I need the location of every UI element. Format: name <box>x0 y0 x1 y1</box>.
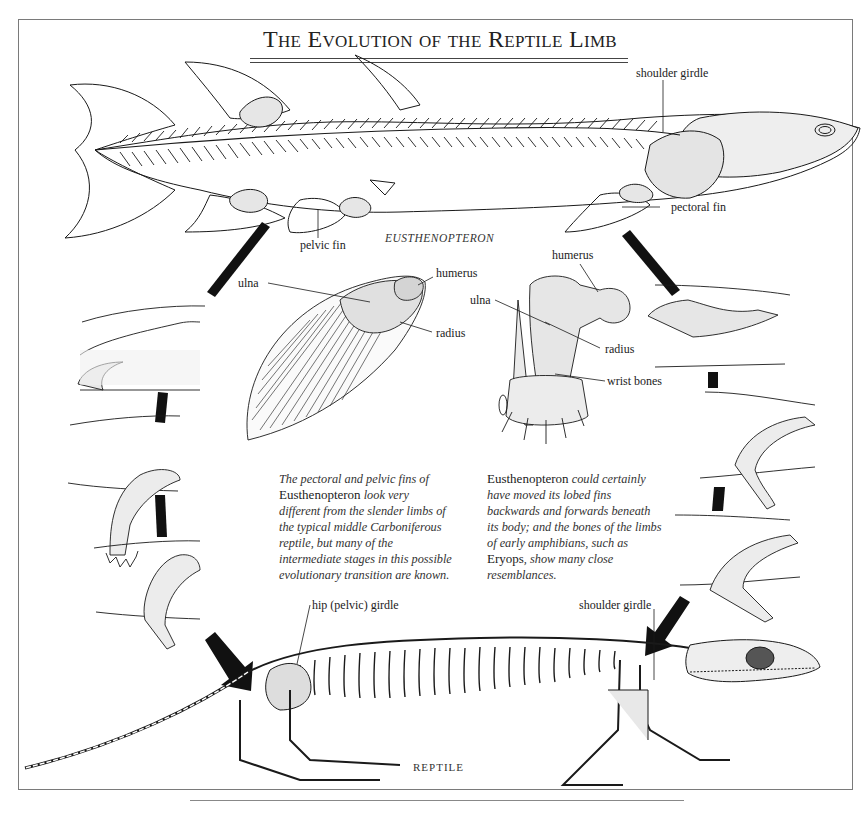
caption-right: Eusthenopteron could certainly have move… <box>487 471 687 583</box>
illustration <box>0 0 868 817</box>
label-fin-humerus: humerus <box>436 266 477 281</box>
arc-segment-left-2 <box>155 495 167 537</box>
limb-bone-detail-illustration <box>499 276 630 444</box>
caption-left-line: look very <box>361 488 409 502</box>
label-pelvic-fin: pelvic fin <box>300 238 346 253</box>
caption-left-line: reptile, but many of the <box>279 535 479 551</box>
label-reptile-shoulder-girdle: shoulder girdle <box>579 598 651 613</box>
caption-left-genus: Eusthenopteron <box>279 487 361 502</box>
label-limb-wrist-bones: wrist bones <box>607 374 662 389</box>
caption-left-line: different from the slender limbs of <box>279 503 479 519</box>
fin-bone-detail-illustration <box>247 276 425 440</box>
species-name-eusthenopteron: EUSTHENOPTERON <box>385 232 494 244</box>
arc-segment-top-right <box>622 230 680 296</box>
eusthenopteron-fish-illustration <box>65 55 860 238</box>
label-fin-radius: radius <box>436 326 465 341</box>
caption-left: The pectoral and pelvic fins of Eustheno… <box>279 471 479 583</box>
caption-right-line: have moved its lobed fins <box>487 487 687 503</box>
fish-leader-lines <box>318 80 663 238</box>
caption-right-genus: Eryops <box>487 551 524 566</box>
label-limb-humerus: humerus <box>552 248 593 263</box>
caption-right-line: its body; and the bones of the limbs <box>487 519 687 535</box>
reptile-leader-lines <box>297 605 654 680</box>
caption-left-line: evolutionary transition are known. <box>279 567 479 583</box>
caption-right-line: , show many close <box>524 552 613 566</box>
arrow-down-left-icon <box>205 632 253 691</box>
label-fish-shoulder-girdle: shoulder girdle <box>636 66 708 81</box>
evolution-cycle-arrows <box>155 222 725 691</box>
caption-right-line: could certainly <box>569 472 646 486</box>
caption-left-line: the typical middle Carboniferous <box>279 519 479 535</box>
caption-right-line: resemblances. <box>487 567 687 583</box>
caption-left-line: intermediate stages in this possible <box>279 551 479 567</box>
species-name-reptile: REPTILE <box>413 761 464 773</box>
label-hip-pelvic-girdle: hip (pelvic) girdle <box>312 598 399 613</box>
caption-right-line: of early amphibians, such as <box>487 535 687 551</box>
caption-left-line: The pectoral and pelvic fins of <box>279 471 479 487</box>
label-fin-ulna: ulna <box>238 276 259 291</box>
arc-segment-right-1 <box>708 372 718 388</box>
label-pectoral-fin: pectoral fin <box>671 200 726 215</box>
left-transition-panels <box>68 306 205 649</box>
label-limb-radius: radius <box>605 342 634 357</box>
label-limb-ulna: ulna <box>470 293 491 308</box>
caption-right-genus: Eusthenopteron <box>487 471 569 486</box>
arc-segment-right-2 <box>712 487 725 511</box>
arc-segment-left-1 <box>155 392 168 423</box>
caption-right-line: backwards and forwards beneath <box>487 503 687 519</box>
